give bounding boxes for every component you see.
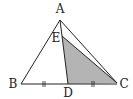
label-b: B [9, 77, 18, 91]
label-c: C [119, 77, 128, 91]
label-a: A [55, 2, 65, 16]
label-d: D [63, 86, 73, 99]
label-e: E [52, 31, 61, 45]
geometry-diagram: A B C D E [0, 0, 133, 99]
side-ab [21, 20, 60, 84]
